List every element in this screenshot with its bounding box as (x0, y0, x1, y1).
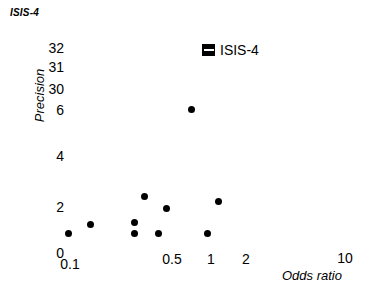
y-tick-label: 30 (30, 82, 64, 96)
y-tick-label: 32 (30, 41, 64, 55)
x-tick-label: 0.5 (152, 252, 192, 266)
data-point (215, 198, 222, 205)
legend-marker-icon (202, 44, 215, 56)
data-point (155, 230, 162, 237)
page-title: ISIS-4 (10, 7, 39, 18)
x-axis-label: Odds ratio (282, 268, 342, 283)
y-tick-label: 6 (30, 103, 64, 117)
data-point (131, 219, 138, 226)
data-point (163, 205, 170, 212)
data-point (131, 230, 138, 237)
data-point (87, 221, 94, 228)
legend: ISIS-4 (202, 43, 259, 57)
y-tick-label: 2 (30, 200, 64, 214)
x-tick-label: 1 (191, 252, 231, 266)
data-point (141, 193, 148, 200)
data-point (204, 230, 211, 237)
y-tick-label: 31 (30, 60, 64, 74)
data-point (188, 106, 195, 113)
x-tick-label: 2 (226, 252, 266, 266)
data-point (65, 230, 72, 237)
x-tick-label: 10 (325, 251, 365, 265)
legend-item-label: ISIS-4 (220, 43, 259, 57)
y-tick-label: 4 (30, 149, 64, 163)
scatter-plot: ISIS-4 Precision Odds ratio 3231306420 0… (0, 0, 376, 301)
x-tick-label: 0.1 (50, 257, 90, 271)
